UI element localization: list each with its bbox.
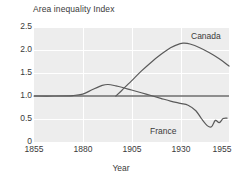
chart-figure: Area inequality Index 2.5 2.0 1.5 1.0 0.… <box>0 0 242 187</box>
series-line-france <box>34 84 227 127</box>
series-label-canada: Canada <box>191 31 221 41</box>
series-line-canada <box>116 43 229 96</box>
chart-curves-layer <box>0 0 242 187</box>
series-label-france: France <box>150 126 176 136</box>
